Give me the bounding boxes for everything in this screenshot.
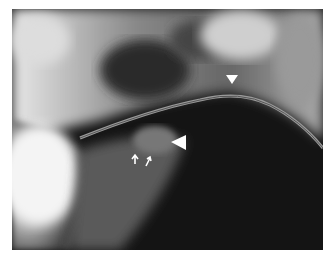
radiograph-image — [12, 9, 323, 250]
radiograph-svg — [12, 9, 323, 250]
